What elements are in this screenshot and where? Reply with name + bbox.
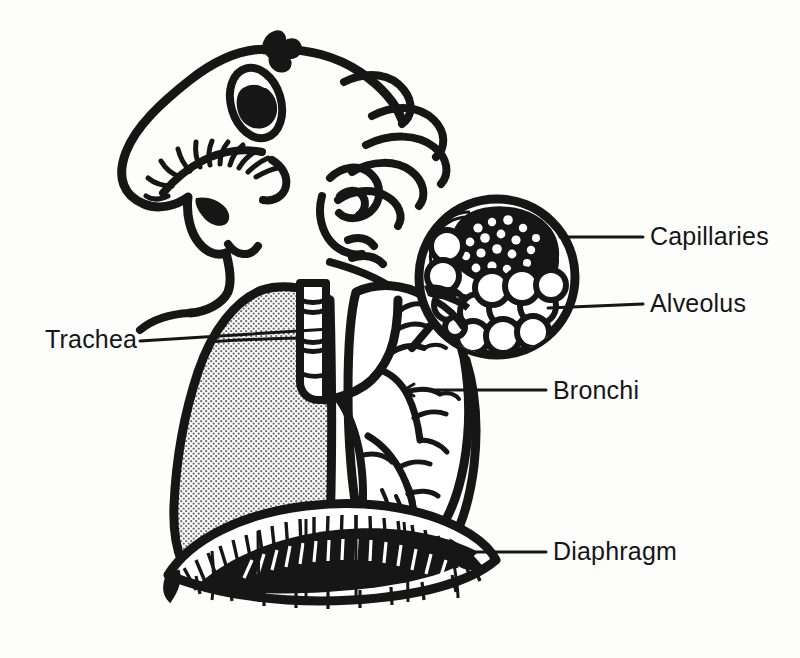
diagram-canvas: Trachea Capillaries Alveolus Bronchi Dia… [0,0,800,658]
label-trachea: Trachea [45,327,137,352]
label-alveolus: Alveolus [650,291,746,316]
label-bronchi: Bronchi [553,378,639,403]
trachea-tube [300,283,327,400]
label-capillaries: Capillaries [650,224,769,249]
label-diaphragm: Diaphragm [553,539,677,564]
magnified-alveolus-inset [412,199,575,355]
